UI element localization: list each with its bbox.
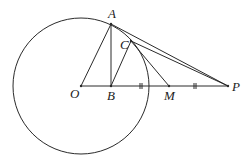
point-labels: ACOBMP [70, 6, 240, 103]
geometry-diagram: ACOBMP [0, 0, 251, 167]
label-c: C [120, 37, 129, 52]
segment-ap [111, 24, 228, 86]
points [80, 23, 229, 87]
label-m: M [163, 88, 176, 103]
segments [81, 24, 228, 86]
point-m [168, 85, 170, 87]
point-o [80, 85, 82, 87]
label-p: P [231, 79, 240, 94]
segment-oa [81, 24, 111, 86]
label-a: A [107, 6, 116, 21]
segment-cm [131, 41, 169, 86]
label-b: B [107, 88, 115, 103]
point-b [110, 85, 112, 87]
label-o: O [70, 86, 80, 101]
point-p [227, 85, 229, 87]
point-a [110, 23, 112, 25]
point-c [130, 40, 132, 42]
